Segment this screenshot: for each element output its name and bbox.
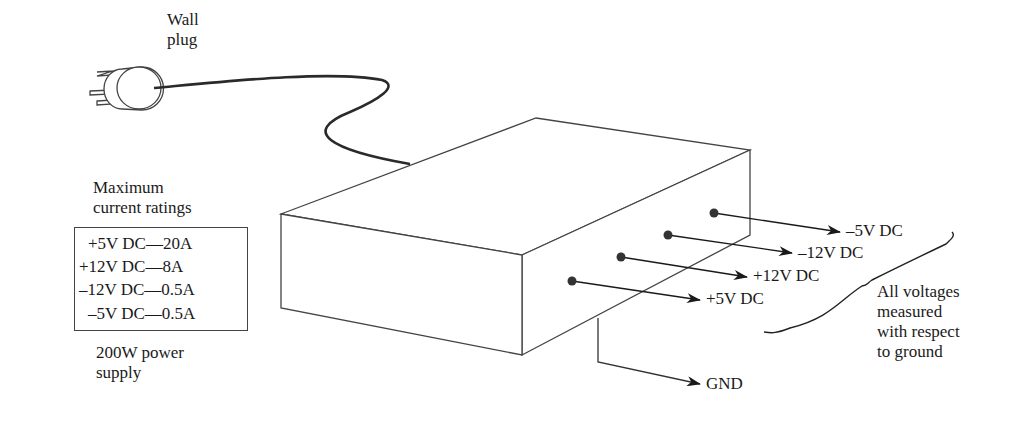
note-line3: with respect xyxy=(877,322,960,342)
note-line2: measured xyxy=(877,302,942,322)
rating-row: +5V DC—20A xyxy=(88,234,192,254)
rating-row: –5V DC—0.5A xyxy=(88,304,195,324)
terminal-plus5v-icon xyxy=(568,277,577,286)
note-line4: to ground xyxy=(877,342,943,362)
ratings-title-line2: current ratings xyxy=(93,198,192,218)
ratings-table: +5V DC—20A +12V DC—8A –12V DC—0.5A –5V D… xyxy=(74,227,248,331)
supply-caption-line1: 200W power xyxy=(96,343,184,363)
output-label-minus5v: –5V DC xyxy=(846,221,903,241)
plug-label-line2: plug xyxy=(167,30,197,50)
ground-lead xyxy=(598,318,700,384)
terminal-minus12v-icon xyxy=(664,231,673,240)
ground-label: GND xyxy=(706,374,743,394)
power-cord xyxy=(154,76,410,164)
output-label-plus12v: +12V DC xyxy=(753,266,819,286)
output-label-minus12v: –12V DC xyxy=(798,243,863,263)
terminal-plus12v-icon xyxy=(617,253,626,262)
note-line1: All voltages xyxy=(877,282,960,302)
supply-caption-line2: supply xyxy=(96,363,141,383)
plug-label-line1: Wall xyxy=(167,10,199,30)
wall-plug-icon xyxy=(90,67,164,110)
terminal-minus5v-icon xyxy=(710,209,719,218)
output-label-plus5v: +5V DC xyxy=(706,289,764,309)
rating-row: –12V DC—0.5A xyxy=(79,280,195,300)
rating-row: +12V DC—8A xyxy=(79,257,183,277)
ratings-title-line1: Maximum xyxy=(93,178,164,198)
